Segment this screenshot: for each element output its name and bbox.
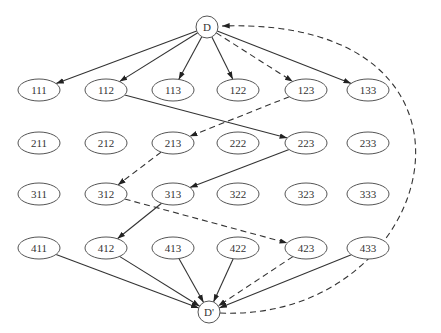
- node-413: 413: [152, 237, 194, 259]
- edge-433-to-Dp: [219, 255, 351, 308]
- node-label: 323: [298, 188, 315, 200]
- node-333: 333: [347, 183, 389, 205]
- node-311: 311: [18, 183, 60, 205]
- node-label: 333: [360, 188, 377, 200]
- edge-411-to-Dp: [56, 254, 199, 308]
- node-label: 112: [98, 84, 114, 96]
- edge-223-to-313: [190, 150, 289, 188]
- node-222: 222: [217, 132, 259, 154]
- node-label: 211: [31, 137, 47, 149]
- node-133: 133: [347, 79, 389, 101]
- node-label: 233: [360, 137, 377, 149]
- node-label: 313: [165, 188, 182, 200]
- node-122: 122: [217, 79, 259, 101]
- edges-layer: [56, 26, 416, 313]
- edge-412-to-Dp: [120, 256, 200, 306]
- edge-D-to-123: [216, 33, 292, 82]
- edge-D-to-111: [56, 31, 197, 84]
- node-label: 422: [230, 242, 247, 254]
- node-label: 133: [360, 84, 377, 96]
- node-123: 123: [285, 79, 327, 101]
- node-label: 222: [230, 137, 247, 149]
- node-label: 111: [31, 84, 47, 96]
- edge-213-to-312: [118, 152, 161, 185]
- edge-D-to-122: [212, 37, 233, 79]
- node-label: D: [203, 21, 211, 33]
- graph-canvas: DD'1111121131221231332112122132222232333…: [0, 0, 441, 333]
- node-label: 423: [298, 242, 315, 254]
- node-111: 111: [18, 79, 60, 101]
- edge-D-to-112: [120, 33, 198, 82]
- edge-112-to-223: [125, 95, 288, 138]
- node-label: 322: [230, 188, 247, 200]
- nodes-layer: DD'1111121131221231332112122132222232333…: [18, 16, 389, 323]
- node-label: 122: [230, 84, 247, 96]
- node-D: D: [196, 16, 218, 38]
- node-323: 323: [285, 183, 327, 205]
- node-label: 213: [165, 137, 182, 149]
- graph-svg: DD'1111121131221231332112122132222232333…: [0, 0, 441, 333]
- edge-423-to-Dp: [218, 257, 293, 306]
- node-211: 211: [18, 132, 60, 154]
- node-label: 212: [98, 137, 115, 149]
- node-label: 113: [165, 84, 182, 96]
- node-322: 322: [217, 183, 259, 205]
- node-D-prime: D': [198, 301, 220, 323]
- node-113: 113: [152, 79, 194, 101]
- edge-313-to-412: [117, 203, 161, 239]
- node-212: 212: [85, 132, 127, 154]
- node-423: 423: [285, 237, 327, 259]
- node-312: 312: [85, 183, 127, 205]
- node-412: 412: [85, 237, 127, 259]
- node-label: 223: [298, 137, 315, 149]
- node-label: 311: [31, 188, 47, 200]
- node-313: 313: [152, 183, 194, 205]
- node-label: 413: [165, 242, 182, 254]
- node-112: 112: [85, 79, 127, 101]
- node-label: 411: [31, 242, 47, 254]
- node-223: 223: [285, 132, 327, 154]
- node-433: 433: [347, 237, 389, 259]
- node-233: 233: [347, 132, 389, 154]
- node-label: 123: [298, 84, 315, 96]
- node-label: 412: [98, 242, 115, 254]
- node-label: 312: [98, 188, 115, 200]
- edge-312-to-423: [125, 199, 288, 243]
- node-label: D': [204, 306, 214, 318]
- node-213: 213: [152, 132, 194, 154]
- edge-Dp-to-D: [220, 26, 416, 313]
- node-422: 422: [217, 237, 259, 259]
- node-label: 433: [360, 242, 377, 254]
- edge-422-to-Dp: [214, 259, 234, 302]
- node-411: 411: [18, 237, 60, 259]
